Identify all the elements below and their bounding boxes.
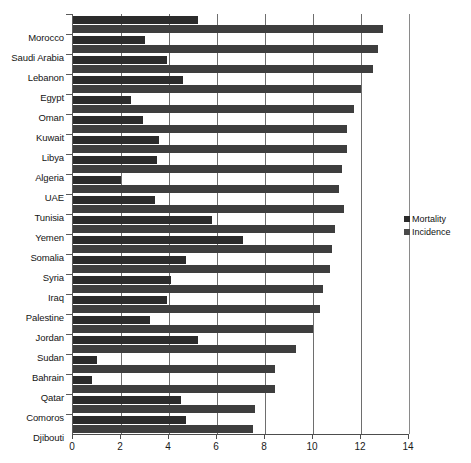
- category-axis-tick: [66, 74, 72, 75]
- bar-mortality: [73, 156, 157, 164]
- bar-mortality: [73, 116, 143, 124]
- bar-incidence: [73, 205, 344, 213]
- x-axis-tick: [72, 434, 73, 439]
- bar-incidence: [73, 305, 320, 313]
- bar-mortality: [73, 376, 92, 384]
- bar-mortality: [73, 176, 121, 184]
- legend-item-label: Incidence: [412, 227, 451, 237]
- bar-mortality: [73, 36, 145, 44]
- x-axis-tick-label: 8: [261, 441, 267, 452]
- category-label: Palestine: [0, 313, 64, 323]
- bar-incidence: [73, 105, 354, 113]
- legend-swatch-icon: [404, 229, 410, 235]
- bar-mortality: [73, 16, 198, 24]
- category-axis-tick: [66, 334, 72, 335]
- x-axis-tick-label: 14: [402, 441, 413, 452]
- x-axis-tick: [360, 434, 361, 439]
- category-axis-labels: MoroccoSaudi ArabiaLebanonEgyptOmanKuwai…: [0, 14, 68, 434]
- bar-mortality: [73, 56, 167, 64]
- category-label: Saudi Arabia: [0, 53, 64, 63]
- category-axis-tick: [66, 14, 72, 15]
- bar-mortality: [73, 316, 150, 324]
- bar-chart: MoroccoSaudi ArabiaLebanonEgyptOmanKuwai…: [0, 0, 471, 463]
- x-axis-tick-label: 6: [213, 441, 219, 452]
- bar-mortality: [73, 256, 186, 264]
- category-label: Oman: [0, 113, 64, 123]
- bar-incidence: [73, 45, 378, 53]
- legend-item[interactable]: Mortality: [404, 212, 471, 225]
- category-label: Tunisia: [0, 213, 64, 223]
- category-label: Syria: [0, 273, 64, 283]
- category-label: Comoros: [0, 413, 64, 423]
- category-label: Sudan: [0, 353, 64, 363]
- category-axis-tick: [66, 234, 72, 235]
- category-axis-tick: [66, 294, 72, 295]
- bar-mortality: [73, 396, 181, 404]
- bar-mortality: [73, 276, 171, 284]
- x-axis-tick: [312, 434, 313, 439]
- bar-incidence: [73, 425, 253, 433]
- bar-incidence: [73, 65, 373, 73]
- category-axis-tick: [66, 374, 72, 375]
- category-label: Qatar: [0, 393, 64, 403]
- x-axis-tick: [120, 434, 121, 439]
- category-label: Lebanon: [0, 73, 64, 83]
- bar-mortality: [73, 356, 97, 364]
- bar-incidence: [73, 145, 347, 153]
- category-axis-tick: [66, 254, 72, 255]
- category-label: Yemen: [0, 233, 64, 243]
- bar-incidence: [73, 225, 335, 233]
- bar-mortality: [73, 236, 243, 244]
- bar-incidence: [73, 365, 275, 373]
- x-axis-tick-label: 12: [354, 441, 365, 452]
- category-axis-tick: [66, 354, 72, 355]
- bar-mortality: [73, 416, 186, 424]
- bar-incidence: [73, 325, 313, 333]
- bar-incidence: [73, 385, 275, 393]
- legend-item[interactable]: Incidence: [404, 225, 471, 238]
- x-axis-tick: [264, 434, 265, 439]
- bar-incidence: [73, 345, 296, 353]
- category-axis-tick: [66, 94, 72, 95]
- category-label: Kuwait: [0, 133, 64, 143]
- category-axis-tick: [66, 34, 72, 35]
- category-axis-tick: [66, 274, 72, 275]
- category-axis-tick: [66, 214, 72, 215]
- bar-mortality: [73, 296, 167, 304]
- x-axis-tick: [216, 434, 217, 439]
- bar-mortality: [73, 136, 159, 144]
- category-label: Morocco: [0, 33, 64, 43]
- category-label: Algeria: [0, 173, 64, 183]
- bar-incidence: [73, 405, 255, 413]
- x-axis-tick: [168, 434, 169, 439]
- chart-legend: MortalityIncidence: [404, 212, 471, 238]
- bar-mortality: [73, 336, 198, 344]
- x-axis-tick-label: 10: [306, 441, 317, 452]
- x-axis-tick: [408, 434, 409, 439]
- category-label: Djibouti: [0, 433, 64, 443]
- category-axis-tick: [66, 54, 72, 55]
- bar-incidence: [73, 165, 342, 173]
- category-axis-tick: [66, 114, 72, 115]
- category-label: Libya: [0, 153, 64, 163]
- bar-incidence: [73, 25, 383, 33]
- gridline: [361, 14, 362, 434]
- category-axis-tick: [66, 154, 72, 155]
- category-axis-tick: [66, 414, 72, 415]
- bar-mortality: [73, 196, 155, 204]
- category-label: Jordan: [0, 333, 64, 343]
- bar-incidence: [73, 245, 332, 253]
- x-axis-tick-label: 2: [117, 441, 123, 452]
- category-axis-tick: [66, 134, 72, 135]
- bar-mortality: [73, 76, 183, 84]
- category-label: UAE: [0, 193, 64, 203]
- category-axis-tick: [66, 194, 72, 195]
- bar-incidence: [73, 85, 361, 93]
- legend-item-label: Mortality: [412, 214, 446, 224]
- category-axis-tick: [66, 314, 72, 315]
- category-axis-tick: [66, 394, 72, 395]
- plot-area: [72, 14, 410, 434]
- bar-incidence: [73, 285, 323, 293]
- category-label: Bahrain: [0, 373, 64, 383]
- bar-incidence: [73, 265, 330, 273]
